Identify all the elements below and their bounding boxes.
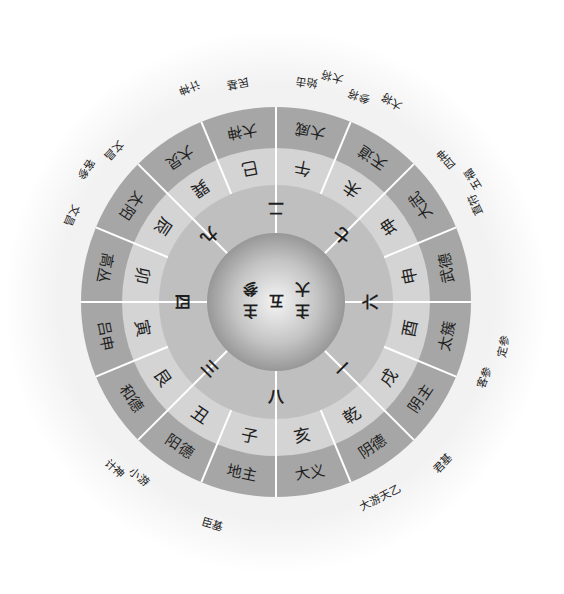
- number-ring-label: 六: [361, 294, 380, 310]
- number-ring-label: 四: [173, 294, 192, 310]
- nine-palace-wheel-diagram: 大威天道大武武德太簇阴主阴德大义地主阳德和德吕申高丛太阳大炅大神 午未坤申酉戌乾…: [0, 0, 564, 594]
- number-ring-label: 二: [268, 199, 284, 218]
- center-right-bottom: 大: [295, 280, 310, 298]
- center-left-top: 主: [243, 302, 258, 320]
- number-ring-label: 八: [267, 387, 285, 406]
- center-middle-label: 五: [269, 292, 284, 310]
- center-left-bottom: 参: [242, 280, 258, 298]
- center-right-top: 主: [295, 302, 310, 320]
